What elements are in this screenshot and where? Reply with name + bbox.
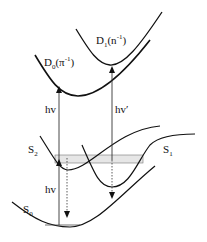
arrowhead-up-icon bbox=[109, 66, 115, 73]
label-s0: S0 bbox=[23, 204, 33, 218]
label-d0: D0(π-1) bbox=[44, 56, 74, 71]
label-s2: S2 bbox=[28, 144, 38, 158]
label-hv-prime: hv′ bbox=[115, 104, 128, 115]
vibrational-band bbox=[55, 155, 143, 163]
potential-energy-diagram: D1(n-1) D0(π-1) S2 S1 S0 hv hv′ hv bbox=[0, 0, 207, 242]
label-hv-ionization: hv bbox=[45, 104, 56, 115]
arrowhead-down-icon bbox=[64, 211, 70, 218]
arrowhead-down-icon bbox=[109, 192, 115, 199]
s0-curve bbox=[12, 166, 155, 227]
label-s1: S1 bbox=[163, 144, 173, 158]
label-d1: D1(n-1) bbox=[96, 34, 126, 49]
label-hv-excitation: hv bbox=[45, 184, 56, 195]
